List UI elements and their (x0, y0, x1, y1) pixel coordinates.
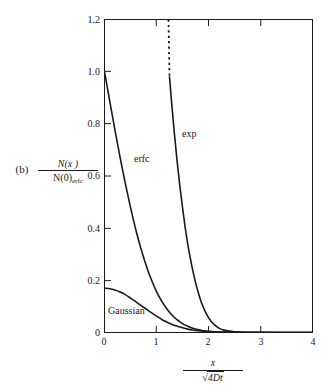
x-tick-label: 3 (251, 336, 271, 347)
plot-area (104, 19, 313, 333)
curve-exp (170, 77, 313, 333)
curve-label-erfc: erfc (134, 153, 150, 164)
x-tick-label: 0 (94, 336, 114, 347)
x-tick-label: 4 (303, 336, 323, 347)
x-tick-label: 2 (198, 336, 218, 347)
x-tick-label: 1 (146, 336, 166, 347)
curve-label-exp: exp (182, 128, 196, 139)
x-tick-marks-top (156, 20, 261, 26)
curve-label-gaussian: Gaussian (108, 305, 145, 316)
plot-frame (105, 20, 313, 333)
curve-erfc (105, 72, 313, 333)
figure-panel-b: (b) N(x ) N(0)erfc x √4Dt 1.2 1.0 0.8 0.… (0, 0, 331, 392)
curve-exp-dotted-extension (169, 20, 170, 77)
